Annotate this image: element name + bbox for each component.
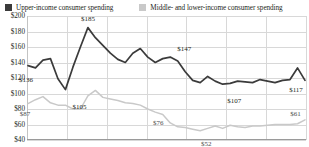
legend-item-middle-lower-income: Middle- and lower-income consumer spendi…	[139, 4, 282, 12]
data-label-185: $185	[81, 15, 95, 23]
line-upper-income	[28, 28, 305, 90]
y-axis-tick-180: $180	[11, 28, 25, 36]
data-label-52: $52	[201, 140, 212, 147]
y-axis-tick-40: $40	[14, 136, 25, 144]
y-axis-tick-140: $140	[11, 59, 25, 67]
legend-swatch-dark-icon	[5, 4, 12, 11]
line-middle-lower-income	[28, 90, 305, 130]
legend-item-upper-income: Upper-income consumer spending	[5, 4, 113, 12]
y-axis-tick-60: $60	[14, 121, 25, 129]
data-label-61: $61	[290, 110, 301, 118]
chart-container: Upper-income consumer spending Middle- a…	[0, 0, 309, 147]
legend-swatch-light-icon	[139, 4, 146, 11]
data-label-107: $107	[227, 97, 241, 105]
data-label-117: $117	[289, 86, 303, 94]
gridline-horizontal	[27, 140, 306, 141]
legend-label-middle-lower-income: Middle- and lower-income consumer spendi…	[150, 4, 282, 12]
y-axis-tick-100: $100	[11, 90, 25, 98]
data-label-136: $136	[19, 76, 33, 84]
data-label-105: $105	[72, 103, 86, 111]
legend-label-upper-income: Upper-income consumer spending	[16, 4, 113, 12]
gridline-vertical	[306, 16, 307, 140]
y-axis-tick-160: $160	[11, 43, 25, 51]
chart-legend: Upper-income consumer spending Middle- a…	[0, 1, 309, 14]
y-axis-tick-200: $200	[11, 12, 25, 20]
data-label-87: $87	[20, 110, 31, 118]
series-lines	[27, 16, 306, 140]
data-label-147: $147	[177, 45, 191, 53]
data-label-76: $76	[153, 119, 164, 127]
plot-area: $136$185$105$147$107$117$87$76$52$61	[27, 16, 306, 140]
